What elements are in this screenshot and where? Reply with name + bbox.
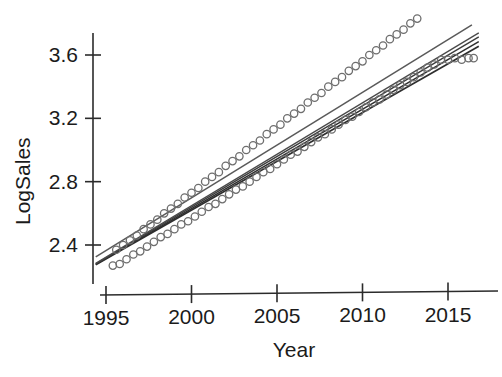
data-points-group	[109, 15, 477, 269]
data-point	[284, 115, 291, 122]
y-axis: 2.42.83.23.6	[49, 33, 101, 284]
data-point	[195, 184, 202, 191]
data-point	[311, 94, 318, 101]
data-point	[318, 89, 325, 96]
data-point	[198, 208, 205, 215]
data-point	[263, 130, 270, 137]
y-axis-tick-labels: 2.42.83.23.6	[49, 43, 79, 256]
data-point	[229, 157, 236, 164]
x-axis: 19952000200520102015	[83, 283, 498, 329]
x-tick-label: 2000	[168, 305, 215, 328]
data-point	[116, 260, 123, 267]
data-point	[212, 200, 219, 207]
data-point	[208, 173, 215, 180]
data-point	[458, 56, 465, 63]
data-point	[123, 256, 130, 263]
data-point	[253, 173, 260, 180]
data-point	[325, 83, 332, 90]
data-point	[359, 58, 366, 65]
data-point	[222, 162, 229, 169]
data-point	[143, 243, 150, 250]
data-point	[414, 15, 421, 22]
y-tick-label: 3.6	[49, 43, 78, 66]
regression-lines-group	[96, 25, 479, 265]
data-point	[181, 194, 188, 201]
data-point	[277, 121, 284, 128]
data-point	[246, 178, 253, 185]
data-point	[407, 20, 414, 27]
data-point	[164, 230, 171, 237]
data-point	[188, 189, 195, 196]
data-point	[379, 42, 386, 49]
data-point	[345, 67, 352, 74]
y-axis-title: LogSales	[11, 137, 34, 225]
chart-figure: 2.42.83.23.6 19952000200520102015 LogSal…	[0, 0, 502, 377]
data-point	[243, 146, 250, 153]
x-axis-tick-labels: 19952000200520102015	[83, 303, 472, 329]
data-point	[352, 62, 359, 69]
x-axis-title: Year	[273, 338, 315, 361]
x-tick-label: 1995	[83, 306, 130, 329]
x-tick-label: 2010	[339, 303, 386, 326]
data-point	[297, 105, 304, 112]
data-point	[191, 213, 198, 220]
data-point	[338, 73, 345, 80]
fit-line	[96, 25, 472, 257]
data-point	[184, 218, 191, 225]
data-point	[304, 99, 311, 106]
data-point	[266, 165, 273, 172]
x-tick-label: 2005	[254, 304, 301, 327]
data-point	[470, 54, 477, 61]
data-point	[219, 195, 226, 202]
data-point	[270, 126, 277, 133]
data-point	[249, 142, 256, 149]
scatter-plot-canvas: 2.42.83.23.6 19952000200520102015 LogSal…	[0, 0, 502, 377]
x-axis-ticks	[106, 283, 448, 304]
y-tick-label: 2.4	[49, 233, 79, 256]
data-point	[400, 26, 407, 33]
x-tick-label: 2015	[425, 303, 472, 326]
data-point	[236, 153, 243, 160]
data-point	[256, 137, 263, 144]
data-point	[331, 78, 338, 85]
data-point	[372, 47, 379, 54]
data-point	[201, 178, 208, 185]
y-tick-label: 3.2	[49, 106, 78, 129]
data-point	[366, 51, 373, 58]
data-point	[225, 191, 232, 198]
data-point	[150, 238, 157, 245]
data-point	[239, 183, 246, 190]
x-axis-spine	[100, 291, 498, 295]
data-point	[393, 31, 400, 38]
y-tick-label: 2.8	[49, 170, 78, 193]
data-point	[386, 35, 393, 42]
fit-line	[96, 37, 479, 264]
data-point	[137, 248, 144, 255]
data-point	[215, 168, 222, 175]
fit-line	[96, 33, 479, 264]
data-point	[171, 225, 178, 232]
data-point	[290, 110, 297, 117]
data-point	[109, 262, 116, 269]
